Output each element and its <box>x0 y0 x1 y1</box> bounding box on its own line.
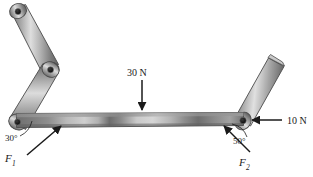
label-load-right: 10 N <box>287 115 307 126</box>
pin-beam-left <box>15 119 21 125</box>
pin-elbow-left <box>48 67 54 73</box>
mechanism-figure: 30 N 10 N 30° 50° F 1 F 2 <box>0 0 313 177</box>
label-force-f2: F 2 <box>238 156 250 172</box>
label-force-f1-subscript: 1 <box>12 159 16 168</box>
label-load-center: 30 N <box>127 67 147 78</box>
label-force-f2-symbol: F <box>238 156 246 168</box>
pin-top-left <box>15 9 21 15</box>
pin-beam-right <box>240 117 246 123</box>
label-force-f1: F 1 <box>4 152 16 168</box>
label-angle-left: 30° <box>5 133 18 143</box>
label-force-f2-subscript: 2 <box>246 163 250 172</box>
horizontal-beam <box>17 113 244 128</box>
label-force-f1-symbol: F <box>4 152 12 164</box>
label-angle-right: 50° <box>233 136 246 146</box>
